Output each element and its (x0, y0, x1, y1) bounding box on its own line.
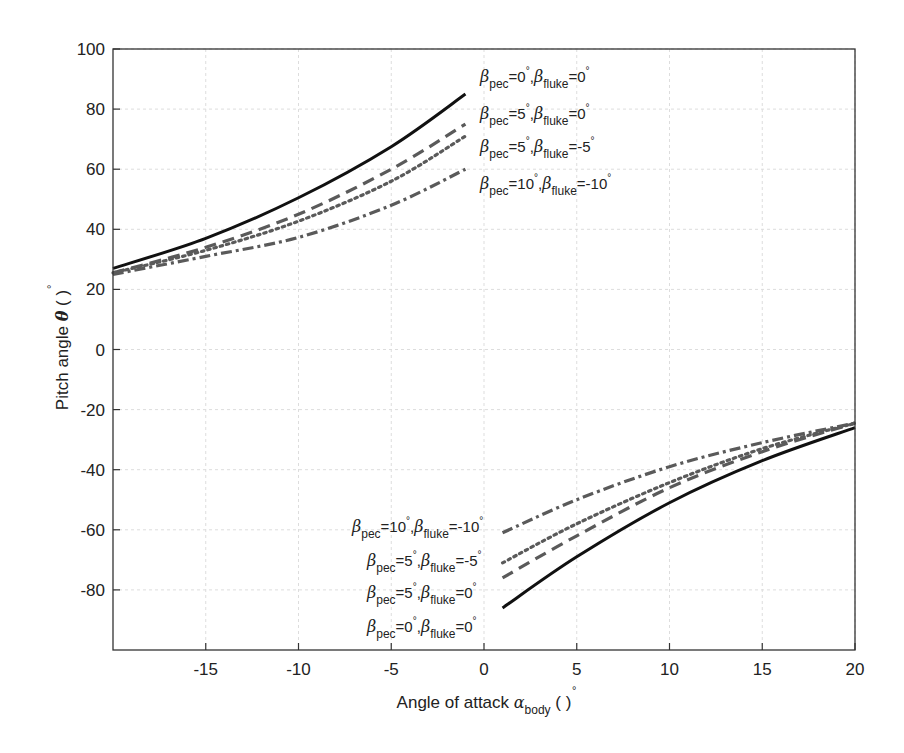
pitch-angle-chart: -15-10-505101520-80-60-40-20020406080100… (0, 0, 904, 753)
y-axis-label: Pitch angle θ ( ) (53, 290, 72, 410)
x-axis-degree-symbol: ° (572, 684, 576, 696)
y-axis-label-main: Pitch angle (53, 321, 72, 410)
x-axis-label-sub: body (525, 703, 551, 717)
x-axis-label: Angle of attack αbody ( ) (397, 693, 572, 717)
curve-annotation: βpec=10°,βfluke=-10° (351, 515, 483, 541)
y-tick-label: 40 (86, 220, 105, 239)
curve-dashdot-negative-branch (113, 169, 465, 274)
x-tick-label: 20 (846, 660, 865, 679)
y-tick-label: -80 (80, 581, 105, 600)
curve-dotted-positive-branch (503, 423, 855, 563)
y-tick-label: -60 (80, 521, 105, 540)
curve-solid-positive-branch (503, 428, 855, 608)
x-tick-label: -5 (384, 660, 399, 679)
x-tick-label: 10 (660, 660, 679, 679)
curve-annotations: βpec=0°,βfluke=0°βpec=5°,βfluke=0°βpec=5… (351, 65, 611, 641)
y-axis-label-unit: ( ) (53, 290, 72, 311)
curve-annotation: βpec=5°,βfluke=0° (479, 102, 590, 128)
curve-annotation: βpec=10°,βfluke=-10° (479, 172, 611, 198)
x-tick-label: 15 (753, 660, 772, 679)
y-tick-label: -20 (80, 401, 105, 420)
x-tick-label: -15 (193, 660, 218, 679)
curve-annotation: βpec=5°,βfluke=-5° (479, 135, 595, 161)
alpha-symbol: α (514, 693, 525, 712)
y-axis-degree-symbol: ° (45, 285, 57, 289)
y-axis-label-group: Pitch angle θ ( ) ° (45, 285, 72, 411)
x-tick-label: 0 (479, 660, 488, 679)
x-tick-label: 5 (572, 660, 581, 679)
curve-annotation: βpec=5°,βfluke=-5° (366, 549, 482, 575)
x-axis-label-main: Angle of attack (397, 693, 514, 712)
theta-symbol: θ (53, 310, 72, 321)
x-tick-label: -10 (286, 660, 311, 679)
curve-annotation: βpec=5°,βfluke=0° (366, 581, 477, 607)
y-tick-label: 100 (77, 40, 105, 59)
y-tick-label: 60 (86, 160, 105, 179)
y-tick-label: 0 (96, 341, 105, 360)
curve-annotation: βpec=0°,βfluke=0° (479, 65, 590, 91)
curve-solid-negative-branch (113, 94, 465, 268)
y-tick-label: -40 (80, 461, 105, 480)
y-tick-label: 80 (86, 100, 105, 119)
x-axis-label-unit: ( ) (551, 693, 572, 712)
curve-annotation: βpec=0°,βfluke=0° (366, 615, 477, 641)
y-tick-label: 20 (86, 280, 105, 299)
